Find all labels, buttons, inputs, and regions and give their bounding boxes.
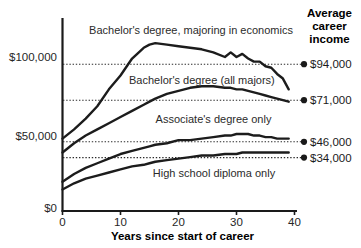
series-label-bachelor-all-majors: Bachelor's degree (all majors) (129, 74, 274, 86)
value-marker-94000 (301, 61, 307, 67)
average-income-value-bachelor: $71,000 (310, 94, 361, 106)
y-tick-label-100000: $100,000 (0, 51, 57, 63)
x-tick-label-10: 10 (106, 216, 135, 228)
right-panel-heading-line3: income (300, 33, 359, 46)
y-tick-label-50000: $50,000 (0, 130, 57, 142)
series-label-associate-degree: Associate's degree only (155, 113, 272, 125)
x-tick-label-30: 30 (222, 216, 251, 228)
value-marker-34000 (301, 155, 307, 161)
value-marker-46000 (301, 139, 307, 145)
right-panel-heading-line2: career (300, 20, 359, 33)
career-income-line-chart: $100,000 $50,000 $0 0 10 20 30 40 Years … (0, 0, 361, 248)
average-income-value-economics: $94,000 (310, 58, 361, 70)
y-tick-label-0: $0 (0, 202, 57, 214)
average-income-value-associate: $46,000 (310, 136, 361, 148)
x-axis-title: Years since start of career (95, 230, 270, 242)
right-panel-heading-line1: Average (300, 7, 359, 20)
x-tick-label-20: 20 (164, 216, 193, 228)
series-label-high-school: High school diploma only (152, 167, 276, 179)
series-label-economics: Bachelor's degree, majoring in economics (85, 24, 297, 36)
x-tick-label-0: 0 (48, 216, 77, 228)
average-income-value-high-school: $34,000 (310, 152, 361, 164)
value-marker-71000 (301, 97, 307, 103)
x-tick-label-40: 40 (280, 216, 309, 228)
